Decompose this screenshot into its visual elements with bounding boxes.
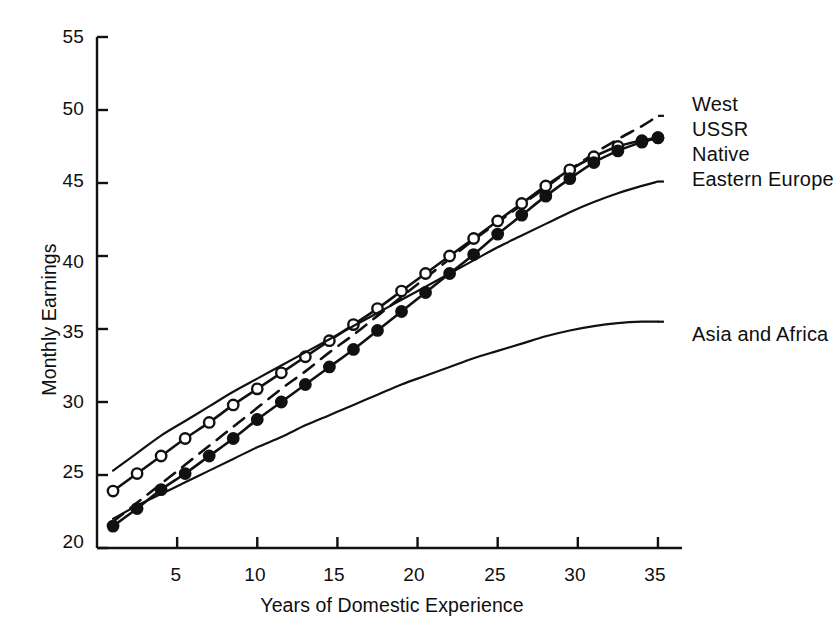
series-label-eastern-europe: Eastern Europe bbox=[692, 168, 834, 191]
marker-native-18 bbox=[541, 191, 551, 201]
marker-native-3 bbox=[180, 468, 190, 478]
marker-native-20 bbox=[589, 157, 599, 167]
series-line-west bbox=[113, 116, 658, 522]
marker-ussr-1 bbox=[132, 468, 142, 478]
y-tick-label-40: 40 bbox=[26, 251, 84, 273]
marker-ussr-12 bbox=[396, 286, 406, 296]
marker-native-7 bbox=[276, 397, 286, 407]
marker-native-8 bbox=[300, 379, 310, 389]
y-tick-label-35: 35 bbox=[26, 321, 84, 343]
y-tick-label-30: 30 bbox=[26, 391, 84, 413]
marker-ussr-0 bbox=[108, 486, 118, 496]
series-line-eastern-europe bbox=[113, 182, 658, 471]
y-axis-ticks bbox=[97, 37, 108, 548]
marker-ussr-13 bbox=[420, 268, 430, 278]
series-label-native: Native bbox=[692, 143, 750, 166]
marker-ussr-7 bbox=[276, 368, 286, 378]
marker-native-17 bbox=[517, 210, 527, 220]
marker-native-22 bbox=[637, 137, 647, 147]
marker-native-10 bbox=[348, 344, 358, 354]
marker-ussr-16 bbox=[492, 216, 502, 226]
x-tick-label-20: 20 bbox=[394, 564, 434, 586]
marker-native-9 bbox=[324, 362, 334, 372]
y-tick-label-55: 55 bbox=[26, 26, 84, 48]
x-axis-title: Years of Domestic Experience bbox=[197, 594, 587, 617]
series-line-asia-and-africa bbox=[113, 322, 658, 519]
marker-native-6 bbox=[252, 414, 262, 424]
x-axis-ticks bbox=[177, 537, 658, 548]
marker-ussr-4 bbox=[204, 417, 214, 427]
series-leader-lines bbox=[658, 116, 664, 322]
x-tick-label-35: 35 bbox=[635, 564, 675, 586]
marker-native-4 bbox=[204, 451, 214, 461]
marker-ussr-14 bbox=[444, 251, 454, 261]
marker-ussr-15 bbox=[468, 233, 478, 243]
series-label-asia-and-africa: Asia and Africa bbox=[692, 323, 828, 346]
y-tick-label-20: 20 bbox=[26, 531, 84, 553]
marker-ussr-2 bbox=[156, 451, 166, 461]
x-tick-label-25: 25 bbox=[475, 564, 515, 586]
marker-native-12 bbox=[396, 306, 406, 316]
marker-ussr-17 bbox=[517, 198, 527, 208]
marker-native-11 bbox=[372, 325, 382, 335]
series-line-native bbox=[113, 138, 658, 526]
x-tick-label-30: 30 bbox=[555, 564, 595, 586]
series-label-west: West bbox=[692, 93, 738, 116]
series-line-ussr bbox=[113, 138, 658, 491]
x-tick-label-10: 10 bbox=[235, 564, 275, 586]
marker-native-5 bbox=[228, 433, 238, 443]
y-tick-label-45: 45 bbox=[26, 170, 84, 192]
marker-native-16 bbox=[492, 229, 502, 239]
marker-native-19 bbox=[565, 173, 575, 183]
series-lines bbox=[108, 116, 663, 531]
marker-ussr-6 bbox=[252, 384, 262, 394]
series-label-ussr: USSR bbox=[692, 118, 748, 141]
y-tick-label-50: 50 bbox=[26, 98, 84, 120]
x-tick-label-15: 15 bbox=[314, 564, 354, 586]
y-tick-label-25: 25 bbox=[26, 461, 84, 483]
x-tick-label-5: 5 bbox=[156, 564, 196, 586]
marker-ussr-18 bbox=[541, 181, 551, 191]
marker-ussr-3 bbox=[180, 433, 190, 443]
marker-native-21 bbox=[613, 146, 623, 156]
marker-ussr-5 bbox=[228, 400, 238, 410]
marker-native-0 bbox=[108, 521, 118, 531]
